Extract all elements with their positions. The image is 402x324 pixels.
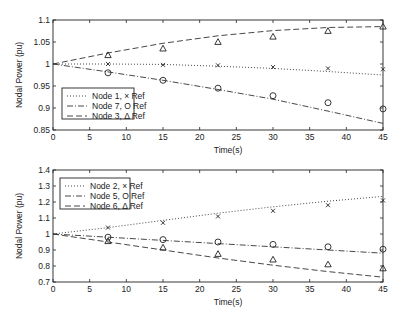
bottom-plot: 0510152025303540450.70.80.911.11.21.31.4… xyxy=(14,165,388,307)
bottom-legend-entry: Node 5, O Ref xyxy=(90,191,145,201)
triangle-marker-icon xyxy=(160,244,166,250)
top-xlabel: Time(s) xyxy=(214,145,243,155)
bottom-xtick-label: 5 xyxy=(87,284,92,294)
top-ylabel: Nodal Power (pu) xyxy=(14,42,24,108)
top-legend: Node 1, × RefNode 7, O RefNode 3, Δ Ref xyxy=(62,88,147,121)
top-xtick-label: 25 xyxy=(232,132,242,142)
bottom-xtick-label: 45 xyxy=(378,284,388,294)
bottom-xlabel: Time(s) xyxy=(214,297,243,307)
bottom-ylabel: Nodal Power (pu) xyxy=(14,193,24,259)
bottom-xtick-label: 35 xyxy=(305,284,315,294)
triangle-marker-icon xyxy=(325,261,331,267)
top-xtick-label: 20 xyxy=(195,132,205,142)
circle-marker-icon xyxy=(270,93,276,99)
top-legend-entry: Node 3, Δ Ref xyxy=(92,111,146,121)
top-ytick-label: 0.9 xyxy=(38,103,50,113)
x-marker-icon xyxy=(106,226,110,230)
bottom-series-line-2 xyxy=(53,234,383,277)
bottom-xtick-label: 25 xyxy=(232,284,242,294)
bottom-legend-entry: Node 6, Δ Ref xyxy=(90,201,144,211)
top-ytick-label: 0.95 xyxy=(33,81,50,91)
x-marker-icon xyxy=(216,63,220,67)
top-xtick-label: 40 xyxy=(342,132,352,142)
top-plot: 0510152025303540450.850.90.9511.051.1Tim… xyxy=(14,15,388,155)
figure: 0510152025303540450.850.90.9511.051.1Tim… xyxy=(0,0,402,324)
top-ytick-label: 1 xyxy=(45,59,50,69)
top-xtick-label: 30 xyxy=(268,132,278,142)
bottom-xtick-label: 0 xyxy=(51,284,56,294)
top-series-line-2 xyxy=(53,27,383,64)
circle-marker-icon xyxy=(215,85,221,91)
circle-marker-icon xyxy=(105,70,111,76)
bottom-ytick-label: 1.2 xyxy=(38,197,50,207)
bottom-ytick-label: 1.4 xyxy=(38,165,50,175)
top-legend-entry: Node 1, × Ref xyxy=(92,91,145,101)
bottom-ytick-label: 1 xyxy=(45,229,50,239)
x-marker-icon xyxy=(326,203,330,207)
x-marker-icon xyxy=(271,209,275,213)
top-xtick-label: 0 xyxy=(51,132,56,142)
top-ytick-label: 1.05 xyxy=(33,37,50,47)
circle-marker-icon xyxy=(215,239,221,245)
x-marker-icon xyxy=(326,66,330,70)
top-xtick-label: 5 xyxy=(87,132,92,142)
top-legend-entry: Node 7, O Ref xyxy=(92,101,147,111)
top-xtick-label: 15 xyxy=(158,132,168,142)
top-ytick-label: 1.1 xyxy=(38,15,50,25)
bottom-xtick-label: 30 xyxy=(268,284,278,294)
bottom-ytick-label: 1.1 xyxy=(38,213,50,223)
bottom-xtick-label: 40 xyxy=(342,284,352,294)
bottom-xtick-label: 20 xyxy=(195,284,205,294)
x-marker-icon xyxy=(161,221,165,225)
bottom-legend-entry: Node 2, × Ref xyxy=(90,181,143,191)
top-xtick-label: 10 xyxy=(122,132,132,142)
triangle-marker-icon xyxy=(270,33,276,39)
triangle-marker-icon xyxy=(215,39,221,45)
triangle-marker-icon xyxy=(270,256,276,262)
circle-marker-icon xyxy=(325,244,331,250)
bottom-ytick-label: 1.3 xyxy=(38,181,50,191)
bottom-xtick-label: 15 xyxy=(158,284,168,294)
triangle-marker-icon xyxy=(325,28,331,34)
bottom-xtick-label: 10 xyxy=(122,284,132,294)
x-marker-icon xyxy=(216,214,220,218)
bottom-ytick-label: 0.8 xyxy=(38,261,50,271)
bottom-legend: Node 2, × RefNode 5, O RefNode 6, Δ Ref xyxy=(60,178,145,211)
top-xtick-label: 45 xyxy=(378,132,388,142)
x-marker-icon xyxy=(271,65,275,69)
circle-marker-icon xyxy=(325,100,331,106)
triangle-marker-icon xyxy=(215,251,221,257)
triangle-marker-icon xyxy=(160,45,166,51)
circle-marker-icon xyxy=(160,237,166,243)
top-ytick-label: 0.85 xyxy=(33,125,50,135)
bottom-ytick-label: 0.7 xyxy=(38,277,50,287)
top-xtick-label: 35 xyxy=(305,132,315,142)
x-marker-icon xyxy=(106,62,110,66)
bottom-ytick-label: 0.9 xyxy=(38,245,50,255)
